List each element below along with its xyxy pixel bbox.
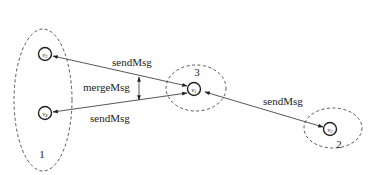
node-v4: v4 [39,107,52,120]
edge-label-v1-v2: sendMsg [112,56,152,68]
edge-v1-v4 [53,93,187,112]
cluster-3-label: 3 [194,66,200,78]
cluster-2-label: 2 [336,138,342,150]
node-v2: v2 [39,48,52,61]
node-v1: v1 [188,83,201,96]
edge-label-v1-v3: sendMsg [263,95,303,107]
node-v3: v3 [324,123,337,136]
edge-label-v1-v4: sendMsg [90,112,130,124]
merge-label: mergeMsg [83,81,130,93]
diagram-canvas: 1 3 2 sendMsg mergeMsg sendMsg sendMsg v… [0,0,377,175]
cluster-1-label: 1 [39,148,45,160]
